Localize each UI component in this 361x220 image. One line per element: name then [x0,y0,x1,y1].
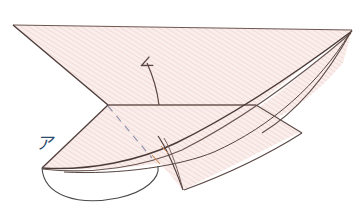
rotation-arc [42,166,158,201]
origami-diagram: ア [0,0,361,220]
label-a: ア [36,133,55,153]
diagram-canvas: ア [0,0,361,220]
